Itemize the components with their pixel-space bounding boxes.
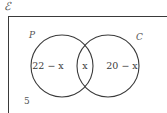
universal-set-symbol: ℰ <box>4 1 11 12</box>
region-value-outside: 5 <box>24 97 30 106</box>
set-label-c: C <box>136 33 143 42</box>
set-label-p: P <box>29 31 35 40</box>
region-value-c-only: 20 − x <box>106 61 137 71</box>
region-value-intersection: x <box>82 61 87 71</box>
region-value-p-only: 22 − x <box>32 61 63 71</box>
venn-diagram-figure: ℰ P C 22 − x x 20 − x 5 <box>0 0 167 113</box>
